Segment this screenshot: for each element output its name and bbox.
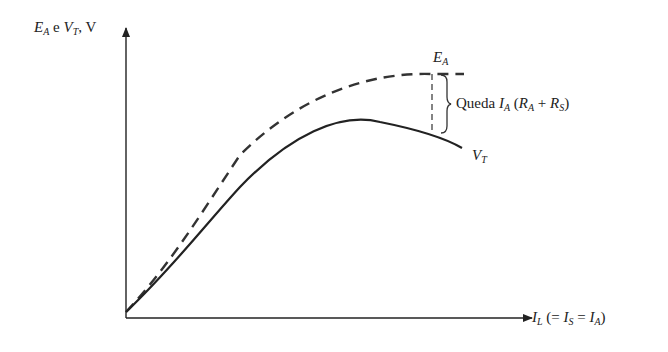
vt-curve (126, 120, 462, 312)
ea-curve (126, 74, 464, 312)
diagram-canvas (0, 0, 668, 352)
brace-icon (441, 75, 451, 133)
y-axis-label: EA e VT, V (34, 20, 96, 35)
x-axis-label: IL (= IS = IA) (532, 310, 606, 325)
voltage-drop-label: Queda IA (RA + RS) (456, 96, 569, 111)
vt-curve-label: VT (472, 148, 487, 163)
ea-curve-label: EA (433, 50, 448, 65)
